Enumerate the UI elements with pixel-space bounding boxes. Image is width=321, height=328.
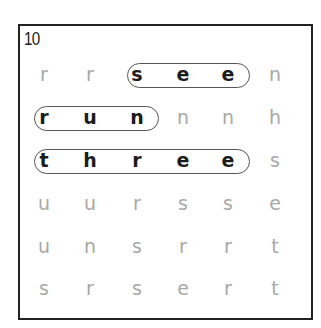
- grid-cell[interactable]: t: [260, 273, 290, 303]
- grid-cell[interactable]: u: [29, 231, 59, 261]
- grid-cell[interactable]: n: [75, 231, 105, 261]
- grid-cell[interactable]: s: [213, 188, 243, 218]
- grid-cell[interactable]: h: [75, 145, 105, 175]
- grid-cell[interactable]: e: [213, 59, 243, 89]
- grid-cell[interactable]: s: [168, 188, 198, 218]
- grid-cell[interactable]: e: [168, 59, 198, 89]
- grid-cell[interactable]: u: [75, 188, 105, 218]
- grid-cell[interactable]: n: [260, 59, 290, 89]
- grid-cell[interactable]: r: [75, 273, 105, 303]
- grid-cell[interactable]: n: [122, 102, 152, 132]
- grid-cell[interactable]: s: [122, 231, 152, 261]
- grid-cell[interactable]: r: [29, 59, 59, 89]
- grid-cell[interactable]: t: [29, 145, 59, 175]
- grid-cell[interactable]: r: [122, 145, 152, 175]
- grid-cell[interactable]: s: [122, 59, 152, 89]
- grid-cell[interactable]: r: [75, 59, 105, 89]
- puzzle-number: 10: [24, 28, 39, 50]
- grid-cell[interactable]: r: [168, 231, 198, 261]
- grid-cell[interactable]: r: [213, 231, 243, 261]
- grid-cell[interactable]: s: [260, 145, 290, 175]
- grid-cell[interactable]: e: [213, 145, 243, 175]
- grid-cell[interactable]: s: [122, 273, 152, 303]
- grid-cell[interactable]: r: [213, 273, 243, 303]
- grid-cell[interactable]: n: [213, 102, 243, 132]
- grid-cell[interactable]: e: [260, 188, 290, 218]
- grid-cell[interactable]: t: [260, 231, 290, 261]
- grid-cell[interactable]: e: [168, 145, 198, 175]
- grid-cell[interactable]: r: [122, 188, 152, 218]
- grid-cell[interactable]: s: [29, 273, 59, 303]
- grid-cell[interactable]: u: [75, 102, 105, 132]
- grid-cell[interactable]: h: [260, 102, 290, 132]
- grid-cell[interactable]: r: [29, 102, 59, 132]
- grid-cell[interactable]: e: [168, 273, 198, 303]
- grid-cell[interactable]: u: [29, 188, 59, 218]
- grid-cell[interactable]: n: [168, 102, 198, 132]
